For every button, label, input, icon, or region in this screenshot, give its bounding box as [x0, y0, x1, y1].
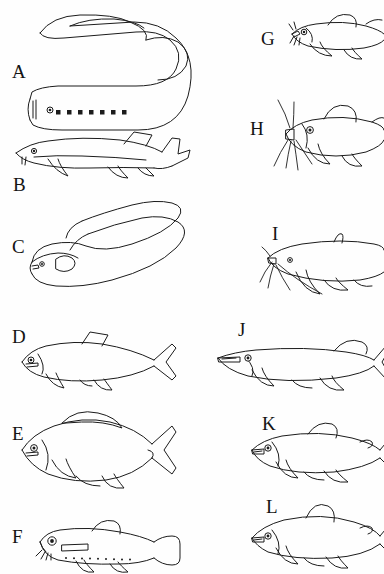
panel-label-h: H	[250, 119, 264, 138]
herring-icon	[16, 330, 182, 392]
sturgeon-icon	[12, 126, 194, 180]
fish-panel-g	[288, 12, 384, 60]
panel-label-l: L	[266, 497, 278, 516]
fish-panel-e	[16, 410, 182, 492]
lanternfish-icon	[34, 518, 180, 570]
panel-label-g: G	[261, 29, 275, 48]
carp-icon	[16, 410, 182, 492]
panel-label-c: C	[12, 237, 25, 256]
fish-panel-a	[18, 6, 188, 130]
fish-panel-b	[12, 126, 194, 180]
lamprey-icon	[18, 6, 188, 130]
fish-panel-d	[16, 330, 182, 392]
bullhead-catfish-icon	[288, 12, 384, 60]
panel-label-i: I	[272, 224, 279, 243]
panel-label-j: J	[238, 320, 246, 339]
panel-label-b: B	[13, 175, 26, 194]
catfish-icon	[262, 230, 384, 302]
fish-panel-i	[262, 230, 384, 302]
figure-plate: ABCDEFGHIJKL	[0, 0, 384, 574]
panel-label-a: A	[12, 62, 26, 81]
panel-label-f: F	[12, 527, 23, 546]
panel-label-k: K	[262, 414, 276, 433]
pike-icon	[216, 334, 384, 394]
panel-label-e: E	[12, 424, 24, 443]
fish-panel-c	[26, 196, 184, 296]
fish-panel-h	[272, 96, 384, 174]
panel-label-d: D	[12, 327, 26, 346]
eel-icon	[26, 196, 184, 296]
fish-panel-f	[34, 518, 180, 570]
fish-panel-j	[216, 334, 384, 394]
channel-catfish-icon	[272, 96, 384, 174]
